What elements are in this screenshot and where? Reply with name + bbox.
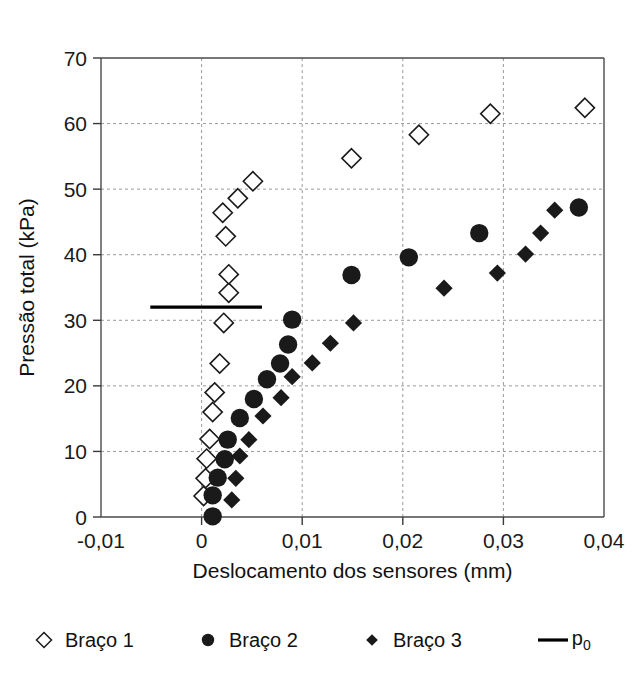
data-series <box>194 98 594 525</box>
legend-label-p0-text: p <box>572 627 583 649</box>
legend-label-p0-subscript: 0 <box>583 637 591 653</box>
data-point <box>435 280 452 297</box>
data-point <box>200 429 219 448</box>
data-point <box>213 203 232 222</box>
tick-label-x-0: -0,01 <box>77 529 125 552</box>
legend-item-braco-3[interactable]: Braço 3 <box>360 628 462 652</box>
legend-item-braco-2[interactable]: Braço 2 <box>196 628 298 652</box>
tick-label-y-10: 10 <box>64 440 87 463</box>
data-point <box>271 354 289 372</box>
gridlines <box>101 58 604 517</box>
data-point <box>570 198 588 216</box>
y-axis-title: Pressão total (kPa) <box>15 198 38 377</box>
tick-label-y-0: 0 <box>75 506 87 529</box>
data-point <box>481 104 500 123</box>
data-point <box>228 189 247 208</box>
data-point <box>470 224 488 242</box>
data-point <box>208 468 226 486</box>
tick-label-y-60: 60 <box>64 112 87 135</box>
data-point <box>219 265 238 284</box>
data-point <box>489 264 506 281</box>
data-point <box>409 125 428 144</box>
tick-label-x-2: 0,01 <box>282 529 323 552</box>
data-point <box>219 430 237 448</box>
chart-figure: 010203040506070-0,0100,010,020,030,04 Pr… <box>0 0 641 673</box>
legend-label-braco-3: Braço 3 <box>393 629 462 652</box>
legend-label-braco-1: Braço 1 <box>65 629 134 652</box>
data-point <box>203 507 221 525</box>
data-point <box>223 491 240 508</box>
legend-label-braco-2: Braço 2 <box>229 629 298 652</box>
data-point <box>231 409 249 427</box>
legend-item-braco-1[interactable]: Braço 1 <box>32 628 134 652</box>
series-bra-o-2 <box>203 198 588 525</box>
tick-label-x-5: 0,04 <box>584 529 625 552</box>
tick-label-y-20: 20 <box>64 374 87 397</box>
tick-label-x-3: 0,02 <box>382 529 423 552</box>
data-point <box>575 98 594 117</box>
x-axis-title: Deslocamento dos sensores (mm) <box>193 559 513 582</box>
data-point <box>245 390 263 408</box>
data-point <box>279 335 297 353</box>
line-icon <box>536 628 570 652</box>
data-point <box>210 354 229 373</box>
data-point <box>219 283 238 302</box>
series-bra-o-3 <box>223 202 563 509</box>
data-point <box>532 224 549 241</box>
data-point <box>243 172 262 191</box>
axis-tick-labels: 010203040506070-0,0100,010,020,030,04 <box>64 47 625 553</box>
series-bra-o-1 <box>194 98 594 505</box>
tick-label-y-30: 30 <box>64 309 87 332</box>
data-point <box>254 407 271 424</box>
tick-label-y-70: 70 <box>64 47 87 70</box>
data-point <box>284 368 301 385</box>
data-point <box>272 389 289 406</box>
scatter-plot: 010203040506070-0,0100,010,020,030,04 Pr… <box>0 0 641 673</box>
chart-legend: Braço 1 Braço 2 Braço 3 <box>0 615 641 665</box>
data-point <box>322 335 339 352</box>
data-point <box>546 202 563 219</box>
data-point <box>304 354 321 371</box>
data-point <box>240 431 257 448</box>
legend-label-p0: p0 <box>572 627 591 653</box>
data-point <box>216 450 234 468</box>
data-point <box>231 447 248 464</box>
data-point <box>227 470 244 487</box>
data-point <box>342 266 360 284</box>
tick-label-x-4: 0,03 <box>483 529 524 552</box>
axis-frame <box>101 58 604 517</box>
data-point <box>203 486 221 504</box>
data-point <box>517 245 534 262</box>
data-point <box>345 314 362 331</box>
data-point <box>400 248 418 266</box>
data-point <box>342 149 361 168</box>
data-point <box>258 370 276 388</box>
tick-label-y-50: 50 <box>64 178 87 201</box>
filled-diamond-icon <box>360 628 384 652</box>
open-diamond-icon <box>32 628 56 652</box>
tick-label-y-40: 40 <box>64 243 87 266</box>
data-point <box>283 310 301 328</box>
legend-item-p0[interactable]: p0 <box>536 627 591 653</box>
data-point <box>214 313 233 332</box>
data-point <box>216 227 235 246</box>
data-point <box>203 402 222 421</box>
tick-label-x-1: 0 <box>196 529 208 552</box>
filled-circle-icon <box>196 628 220 652</box>
